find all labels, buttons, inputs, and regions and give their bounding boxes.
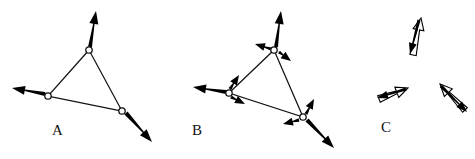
node-a-lower-right xyxy=(119,108,125,114)
panel-label-a: A xyxy=(52,122,63,138)
node-b-left xyxy=(226,90,232,96)
panel-label-b: B xyxy=(192,122,202,138)
figure-canvas: ABC xyxy=(0,0,475,159)
node-a-left xyxy=(45,93,51,99)
node-a-apex xyxy=(86,47,92,53)
node-b-lower-right xyxy=(300,114,306,120)
panel-label-c: C xyxy=(381,119,391,135)
vector-diagram-svg: ABC xyxy=(0,0,475,159)
node-b-apex xyxy=(271,47,277,53)
